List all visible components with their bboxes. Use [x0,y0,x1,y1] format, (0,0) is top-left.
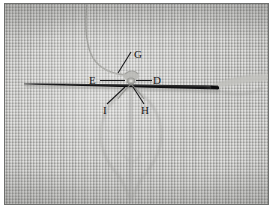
label-I: I [103,104,107,116]
leader-line-G [118,52,131,73]
photo-overlay: G E D I [5,4,269,205]
annotation-G: G [118,48,142,73]
annotation-E: E [89,74,125,86]
label-E: E [89,74,96,86]
label-G: G [134,48,142,60]
fabric-pucker-crease [101,88,162,202]
label-D: D [153,74,161,86]
figure-root: G E D I [0,0,273,208]
annotation-layer: G E D I [89,48,161,116]
annotation-D: D [136,74,161,86]
needle-eye-end [211,86,219,89]
thread-upper-curve [86,4,126,76]
annotation-H: H [133,87,149,116]
fabric-fold-right [213,74,268,89]
label-H: H [141,104,149,116]
photograph-plate: G E D I [4,3,269,205]
